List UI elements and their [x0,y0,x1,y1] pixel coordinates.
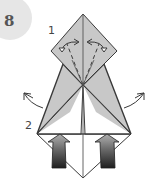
swing-arrow-left-icon [24,93,43,108]
origami-step-diagram: 8 [0,0,155,195]
fold-diagram [0,0,155,195]
label-step-1: 1 [48,24,55,37]
swing-arrow-right-icon [124,93,144,108]
label-step-2: 2 [25,119,32,132]
